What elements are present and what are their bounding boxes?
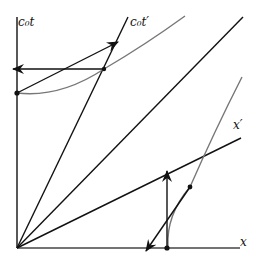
event-dot-ct-axis [14,90,19,95]
diagram-svg [0,0,259,264]
event-dot-lower-intersection [188,185,193,190]
ct-axis-label: c₀t [18,15,34,29]
event-dot-x-axis [164,245,169,250]
upper-hyperbola [17,16,185,94]
spacetime-diagram: c₀t c₀t′ x′ x [0,0,259,264]
ct-prime-axis [17,17,128,248]
x-prime-axis [17,138,241,248]
x-axis-label: x [240,235,247,249]
x-prime-axis-label: x′ [233,118,243,132]
ct-prime-axis-label: c₀t′ [130,15,149,29]
event-dot-upper-intersection [102,67,106,71]
lower-hyperbola [168,77,242,247]
light-cone-line [17,17,243,248]
